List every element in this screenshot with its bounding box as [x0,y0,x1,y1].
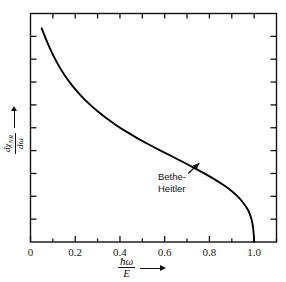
y-axis-title-fraction: dχNR dω [3,133,25,154]
y-axis-numerator-main: dχ [2,143,12,151]
data-curve-bethe-heitler [42,28,254,242]
x-axis-direction-arrow-icon [140,264,166,273]
y-axis-title: dχNR dω [2,100,26,160]
x-axis-title: ħω E [118,256,166,279]
annotation-bethe-heitler-label: Bethe- Heitler [158,171,186,194]
x-axis-title-numerator: ħω [118,256,135,267]
y-axis-numerator-subscript: NR [7,135,14,143]
x-axis-title-fraction: ħω E [118,256,135,279]
x-tick-label: 0.2 [60,246,90,258]
y-axis-title-denominator: dω [16,136,25,151]
y-axis-left-ticks [31,36,37,219]
x-tick-label: 0.8 [194,246,224,258]
x-axis-title-denominator: E [121,268,132,279]
annotation-line-1: Bethe- [158,171,186,183]
x-tick-label: 0 [16,246,46,258]
x-tick-label: 1.0 [239,246,269,258]
bremsstrahlung-cross-section-figure: 00.20.40.60.81.0 ħω E dχNR dω Bethe- Hei… [0,0,286,282]
plot-frame [31,14,277,243]
annotation-line-2: Heitler [158,183,186,195]
plot-canvas [0,0,286,282]
y-axis-right-ticks [271,36,277,219]
x-axis-top-ticks [53,14,254,19]
y-axis-title-numerator: dχNR [3,133,14,154]
y-axis-direction-arrow-icon [11,106,19,128]
